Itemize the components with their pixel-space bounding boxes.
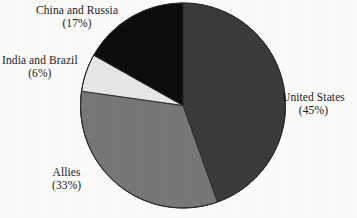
pie-label-china-and-russia: China and Russia (17%)	[36, 4, 118, 29]
pie-label-allies: Allies (33%)	[52, 166, 81, 191]
pie-label-china-and-russia-percent: (17%)	[36, 17, 118, 30]
pie-label-allies-name: Allies	[52, 166, 81, 179]
pie-label-allies-percent: (33%)	[52, 179, 81, 192]
pie-label-united-states: United States (45%)	[282, 91, 345, 116]
pie-chart-figure: China and Russia (17%) India and Brazil …	[0, 0, 357, 218]
pie-label-india-and-brazil: India and Brazil (6%)	[2, 54, 78, 79]
pie-label-india-and-brazil-percent: (6%)	[2, 67, 78, 80]
pie-label-india-and-brazil-name: India and Brazil	[2, 54, 78, 67]
pie-label-china-and-russia-name: China and Russia	[36, 4, 118, 17]
pie-label-united-states-name: United States	[282, 91, 345, 104]
pie-label-united-states-percent: (45%)	[282, 104, 345, 117]
